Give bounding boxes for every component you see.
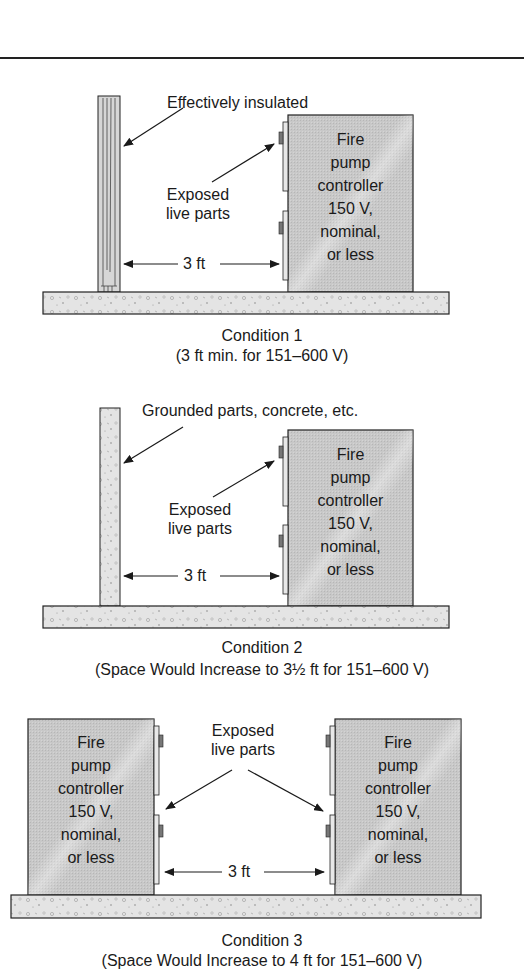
insulated-wall	[98, 96, 120, 292]
live-part-upper	[279, 446, 283, 458]
controller-line: pump	[288, 151, 413, 174]
door-panel-upper-left	[154, 726, 159, 795]
controller-line: Fire	[28, 731, 154, 754]
live-part-upper-left	[159, 735, 163, 747]
controller-line: controller	[288, 174, 413, 197]
live-part-lower-left	[159, 825, 163, 837]
floor-slab	[43, 606, 449, 628]
controller-label-right: Fire pump controller 150 V, nominal, or …	[335, 731, 461, 869]
distance-label: 3 ft	[224, 863, 254, 881]
controller-line: controller	[335, 777, 461, 800]
controller-label-left: Fire pump controller 150 V, nominal, or …	[28, 731, 154, 869]
controller-line: 150 V,	[288, 197, 413, 220]
controller-label: Fire pump controller 150 V, nominal, or …	[288, 128, 413, 266]
controller-line: or less	[335, 846, 461, 869]
floor-slab	[11, 895, 481, 918]
wall-label: Effectively insulated	[167, 93, 308, 112]
controller-line: or less	[288, 243, 413, 266]
condition-3-title: Condition 3	[0, 931, 524, 951]
live-part-lower	[279, 535, 283, 547]
controller-line: or less	[28, 846, 154, 869]
controller-line: nominal,	[335, 823, 461, 846]
controller-line: or less	[288, 558, 413, 581]
controller-line: pump	[288, 466, 413, 489]
condition-1-title: Condition 1	[0, 326, 524, 346]
live-parts-label-line1: Exposed	[193, 721, 293, 740]
controller-line: Fire	[288, 443, 413, 466]
condition-2-note: (Space Would Increase to 3½ ft for 151–6…	[0, 660, 524, 680]
controller-line: 150 V,	[28, 800, 154, 823]
door-panel-lower-left	[154, 815, 159, 884]
condition-3-note: (Space Would Increase to 4 ft for 151–60…	[0, 951, 524, 971]
live-parts-label-line2: live parts	[148, 204, 248, 223]
live-parts-label-line1: Exposed	[150, 500, 250, 519]
controller-line: pump	[28, 754, 154, 777]
live-part-upper-right	[326, 735, 330, 747]
distance-label: 3 ft	[180, 567, 210, 585]
distance-label: 3 ft	[179, 255, 209, 273]
live-part-lower-right	[326, 825, 330, 837]
live-parts-label: Exposed live parts	[193, 721, 293, 759]
controller-label: Fire pump controller 150 V, nominal, or …	[288, 443, 413, 581]
condition-2-title: Condition 2	[0, 638, 524, 658]
controller-line: nominal,	[288, 535, 413, 558]
condition-1-note: (3 ft min. for 151–600 V)	[0, 346, 524, 366]
wall-label: Grounded parts, concrete, etc.	[142, 401, 358, 420]
grounded-wall	[100, 408, 120, 606]
live-part-lower	[279, 222, 283, 234]
controller-line: nominal,	[28, 823, 154, 846]
live-parts-label: Exposed live parts	[148, 185, 248, 223]
controller-line: Fire	[288, 128, 413, 151]
controller-line: 150 V,	[288, 512, 413, 535]
controller-line: nominal,	[288, 220, 413, 243]
controller-line: Fire	[335, 731, 461, 754]
controller-line: controller	[288, 489, 413, 512]
controller-line: pump	[335, 754, 461, 777]
live-parts-label-line2: live parts	[150, 519, 250, 538]
live-parts-label-line1: Exposed	[148, 185, 248, 204]
live-parts-label-line2: live parts	[193, 740, 293, 759]
floor-slab	[43, 292, 449, 314]
controller-line: controller	[28, 777, 154, 800]
live-part-upper	[279, 132, 283, 144]
live-parts-label: Exposed live parts	[150, 500, 250, 538]
controller-line: 150 V,	[335, 800, 461, 823]
